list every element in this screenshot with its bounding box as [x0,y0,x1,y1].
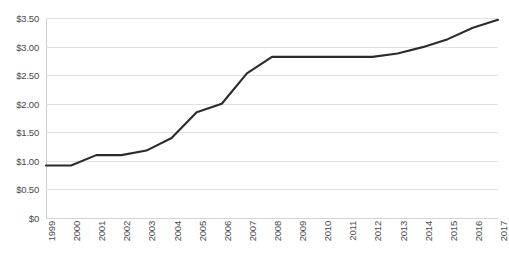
x-axis-tick-label: 2017 [498,221,509,241]
series-line-chart [46,18,498,218]
y-axis-tick-label: $2.50 [16,70,39,81]
gridline [46,218,498,219]
x-axis-tick-label: 2005 [197,221,208,241]
y-axis-tick-label: $2.00 [16,98,39,109]
x-axis-tick-label: 2016 [473,221,484,241]
x-axis-tick-label: 2009 [297,221,308,241]
x-axis-tick-label: 2001 [96,221,107,241]
x-axis-tick-label: 2014 [423,221,434,241]
data-series-line [46,20,498,166]
x-axis-tick-label: 1999 [46,221,57,241]
x-axis-tick-label: 2006 [222,221,233,241]
x-axis-tick-label: 2012 [372,221,383,241]
x-axis-tick-label: 2004 [172,221,183,241]
x-axis-tick-label: 2010 [322,221,333,241]
x-axis-tick-label: 2007 [247,221,258,241]
y-axis-labels: $0$0.50$1.00$1.50$2.00$2.50$3.00$3.50 [0,0,44,269]
y-axis-tick-label: $1.50 [16,127,39,138]
x-axis-tick-label: 2015 [448,221,459,241]
x-axis-tick-label: 2011 [347,221,358,241]
y-axis-tick-label: $1.00 [16,155,39,166]
x-axis-tick-label: 2008 [272,221,283,241]
x-axis-tick-label: 2013 [398,221,409,241]
y-axis-tick-label: $3.00 [16,41,39,52]
x-axis-labels: 1999200020012002200320042005200620072008… [46,221,498,269]
x-axis-tick-label: 2000 [71,221,82,241]
y-axis-tick-label: $0 [29,213,39,224]
x-axis-tick-label: 2003 [146,221,157,241]
plot-area [46,18,498,218]
y-axis-tick-label: $3.50 [16,13,39,24]
x-axis-tick-label: 2002 [121,221,132,241]
y-axis-tick-label: $0.50 [16,184,39,195]
